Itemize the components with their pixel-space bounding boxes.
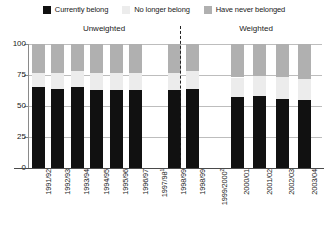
x-axis-label-3: 1994/95 — [103, 169, 111, 229]
group-title-weighted: Weighted — [186, 24, 326, 34]
bar-segment-0 — [110, 90, 123, 168]
bar-segment-0 — [129, 90, 142, 168]
x-axis-label-footnote-6: 1 — [158, 169, 164, 172]
bar-1992-93 — [51, 44, 64, 168]
bar-segment-2 — [253, 44, 266, 76]
legend-item-no-longer-belong: No longer belong — [122, 5, 190, 14]
bar-segment-2 — [90, 44, 103, 73]
bar-segment-1 — [253, 76, 266, 96]
bar-2002-03 — [276, 44, 289, 168]
bar-1996-97 — [129, 44, 142, 168]
group-divider — [180, 26, 181, 168]
x-axis-label-8: 1998/99 — [199, 169, 207, 229]
bar-2003-04 — [298, 44, 311, 168]
legend-swatch-no-longer-belong — [122, 6, 130, 14]
x-axis-label-5: 1996/97 — [142, 169, 150, 229]
bar-segment-1 — [186, 71, 199, 88]
bar-segment-2 — [231, 44, 244, 77]
bar-1994-95 — [90, 44, 103, 168]
legend-label-have-never-belonged: Have never belonged — [216, 5, 285, 14]
legend-label-currently-belong: Currently belong — [55, 5, 108, 14]
bar-segment-1 — [90, 73, 103, 90]
x-axis-label-9: 1999/20002 — [221, 169, 229, 229]
bar-segment-2 — [129, 44, 142, 73]
x-axis-label-4: 1995/96 — [122, 169, 130, 229]
bar-segment-0 — [71, 87, 84, 168]
bar-segment-2 — [51, 44, 64, 73]
bar-segment-1 — [168, 73, 181, 90]
bar-segment-0 — [253, 96, 266, 168]
bar-segment-0 — [51, 89, 64, 168]
bar-segment-1 — [32, 73, 45, 88]
x-axis-baseline — [14, 168, 324, 169]
x-axis-label-11: 2001/02 — [266, 169, 274, 229]
bar-segment-0 — [168, 90, 181, 168]
bar-segment-0 — [276, 99, 289, 168]
bar-segment-2 — [276, 44, 289, 77]
bar-segment-1 — [110, 73, 123, 90]
x-axis-label-6: 1997/981 — [161, 169, 169, 229]
bar-segment-1 — [129, 73, 142, 90]
bar-segment-2 — [186, 44, 199, 71]
bar-2000-01 — [231, 44, 244, 168]
bar-1998-99 — [186, 44, 199, 168]
chart-container: Currently belong No longer belong Have n… — [0, 0, 328, 230]
legend-swatch-have-never-belonged — [204, 6, 212, 14]
legend-label-no-longer-belong: No longer belong — [134, 5, 190, 14]
bar-segment-0 — [231, 97, 244, 168]
bar-2001-02 — [253, 44, 266, 168]
bar-segment-0 — [298, 100, 311, 168]
bar-segment-0 — [32, 87, 45, 168]
bar-segment-2 — [168, 44, 181, 73]
bar-1995-96 — [110, 44, 123, 168]
legend-item-have-never-belonged: Have never belonged — [204, 5, 285, 14]
bar-segment-1 — [276, 77, 289, 98]
y-axis-line — [28, 44, 29, 169]
y-tick-label-25: 25 — [6, 133, 26, 141]
bar-segment-0 — [90, 90, 103, 168]
bar-segment-1 — [71, 71, 84, 87]
x-axis-label-12: 2002/03 — [288, 169, 296, 229]
bar-segment-1 — [231, 78, 244, 98]
bar-segment-2 — [110, 44, 123, 73]
bar-1991-92 — [32, 44, 45, 168]
x-axis-label-1: 1992/93 — [64, 169, 72, 229]
x-axis-label-2: 1993/94 — [83, 169, 91, 229]
chart-legend: Currently belong No longer belong Have n… — [0, 5, 328, 14]
bar-segment-1 — [51, 73, 64, 89]
plot-area: 0255075100 — [28, 44, 322, 168]
x-axis-label-13: 2003/04 — [311, 169, 319, 229]
bar-segment-2 — [298, 44, 311, 79]
bar-segment-2 — [32, 44, 45, 73]
x-axis-label-7: 1998/99 — [180, 169, 188, 229]
legend-item-currently-belong: Currently belong — [43, 5, 108, 14]
legend-swatch-currently-belong — [43, 6, 51, 14]
bar-segment-0 — [186, 89, 199, 168]
x-axis-label-0: 1991/92 — [45, 169, 53, 229]
bar-segment-2 — [71, 44, 84, 71]
x-axis-label-footnote-9: 2 — [218, 169, 224, 172]
bar-1998-99 — [168, 44, 181, 168]
y-tick-label-75: 75 — [6, 71, 26, 79]
x-axis-label-10: 2000/01 — [243, 169, 251, 229]
bar-1993-94 — [71, 44, 84, 168]
y-tick-label-50: 50 — [6, 102, 26, 110]
y-tick-label-100: 100 — [6, 40, 26, 48]
group-title-unweighted: Unweighted — [34, 24, 174, 34]
bar-segment-1 — [298, 79, 311, 100]
